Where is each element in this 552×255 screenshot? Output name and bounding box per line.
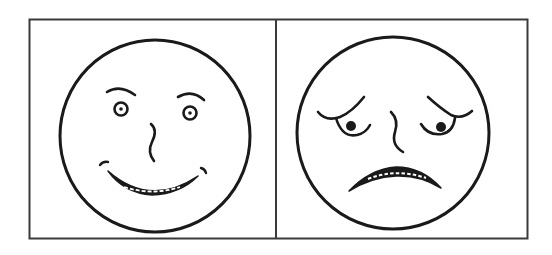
sad-right-eyebrow xyxy=(428,97,472,117)
sad-left-pupil-icon xyxy=(346,121,356,131)
happy-left-eyebrow xyxy=(107,89,135,95)
happy-cheek-left xyxy=(100,162,108,165)
faces-svg xyxy=(0,0,552,255)
faces-figure: Two cartoon faces side by side in a bord… xyxy=(0,0,552,255)
happy-nose xyxy=(150,124,155,161)
happy-cheek-right xyxy=(201,168,206,173)
sad-mouth xyxy=(349,167,441,191)
happy-face-panel xyxy=(60,40,250,232)
sad-face-outline xyxy=(297,37,489,229)
happy-right-eye-icon xyxy=(184,107,197,120)
happy-right-eyebrow xyxy=(178,94,204,100)
sad-nose xyxy=(391,112,403,152)
sad-left-eyebrow xyxy=(318,97,364,119)
frame xyxy=(30,19,528,239)
sad-face-panel xyxy=(297,37,489,229)
happy-mouth xyxy=(108,171,198,195)
happy-left-eye-icon xyxy=(115,103,128,116)
sad-right-pupil-icon xyxy=(436,122,446,132)
